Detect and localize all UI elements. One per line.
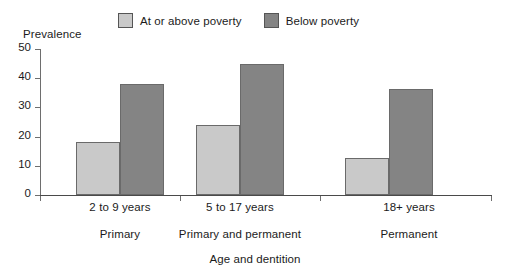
category-label-2-to-9-years: 2 to 9 years [89,201,150,213]
legend-entry-at-or-above-poverty: At or above poverty [118,13,242,28]
y-tick-label-20: 20 [18,129,31,141]
y-axis-title: Prevalence [23,28,82,40]
y-tick-10: 10 [35,166,40,167]
bar-below-poverty-18-plus-years [389,89,433,195]
legend-entry-below-poverty: Below poverty [264,13,360,28]
y-tick-label-10: 10 [18,158,31,170]
legend-swatch-below-poverty [264,13,279,28]
y-tick-label-0: 0 [25,187,31,199]
y-tick-label-30: 30 [18,99,31,111]
category-sublabel-permanent: Permanent [380,228,437,240]
legend-label-below-poverty: Below poverty [286,15,360,27]
legend-label-at-or-above-poverty: At or above poverty [140,15,242,27]
y-tick-40: 40 [35,78,40,79]
bar-at-or-above-poverty-2-to-9-years [76,142,120,195]
bar-at-or-above-poverty-18-plus-years [345,158,389,195]
y-tick-20: 20 [35,137,40,138]
x-axis-title: Age and dentition [209,253,300,265]
x-tick-end [491,196,492,201]
legend-swatch-at-or-above-poverty [118,13,133,28]
plot-area: 50 40 30 20 10 0 [40,46,492,196]
y-tick-label-40: 40 [18,70,31,82]
bar-below-poverty-5-to-17-years [240,64,284,195]
bar-at-or-above-poverty-5-to-17-years [196,125,240,195]
bar-chart: At or above poverty Below poverty Preval… [0,0,510,272]
category-label-18-plus-years: 18+ years [383,201,435,213]
category-sublabel-primary: Primary [100,228,140,240]
x-axis-line [40,195,492,196]
y-tick-50: 50 [35,49,40,50]
category-sublabel-primary-and-permanent: Primary and permanent [179,228,301,240]
y-tick-label-50: 50 [18,41,31,53]
bar-below-poverty-2-to-9-years [120,84,164,195]
x-tick-group-1-2 [180,196,181,201]
category-label-5-to-17-years: 5 to 17 years [206,201,274,213]
y-tick-30: 30 [35,107,40,108]
x-tick-start [40,196,41,201]
chart-legend: At or above poverty Below poverty [118,13,359,28]
x-tick-group-2-3 [320,196,321,201]
y-axis-line [40,49,41,196]
